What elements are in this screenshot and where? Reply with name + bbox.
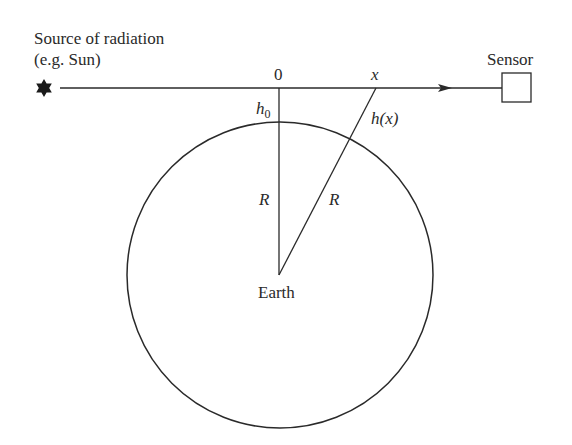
- source-label-line2: (e.g. Sun): [34, 50, 101, 69]
- earth-circle: [127, 122, 433, 428]
- sensor-label: Sensor: [487, 50, 534, 69]
- sensor-box-icon: [502, 73, 531, 102]
- x-label: x: [370, 65, 379, 84]
- r-right-label: R: [328, 190, 340, 209]
- earth-label: Earth: [258, 283, 295, 302]
- origin-label: 0: [274, 65, 283, 84]
- star-icon: [36, 79, 52, 97]
- slanted-radius-line: [279, 88, 376, 275]
- h0-label: h0: [256, 99, 271, 121]
- source-label-line1: Source of radiation: [34, 29, 165, 48]
- radiation-path-diagram: Source of radiation (e.g. Sun) Sensor 0 …: [0, 0, 572, 445]
- r-left-label: R: [258, 190, 270, 209]
- hx-label: h(x): [371, 109, 399, 128]
